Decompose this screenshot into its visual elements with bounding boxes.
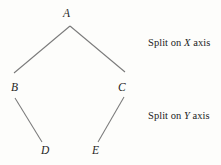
split-x-suffix: axis <box>191 37 211 48</box>
annotation-split-x-axis: Split on X axis <box>148 37 210 49</box>
split-x-prefix: Split on <box>148 37 184 48</box>
tree-node-d: D <box>41 145 50 156</box>
split-y-prefix: Split on <box>148 110 184 121</box>
split-y-suffix: axis <box>190 110 210 121</box>
edge-a-b <box>14 26 70 73</box>
edge-c-e <box>98 97 124 142</box>
tree-node-b: B <box>11 82 18 93</box>
figure-canvas: A B C D E Split on X axis Split on Y axi… <box>0 0 221 165</box>
annotation-split-y-axis: Split on Y axis <box>148 110 210 122</box>
edge-b-d <box>15 98 42 142</box>
tree-node-a: A <box>63 8 70 19</box>
tree-node-c: C <box>118 82 126 93</box>
edge-a-c <box>70 26 125 72</box>
tree-node-e: E <box>92 145 99 156</box>
tree-edges <box>0 0 221 165</box>
